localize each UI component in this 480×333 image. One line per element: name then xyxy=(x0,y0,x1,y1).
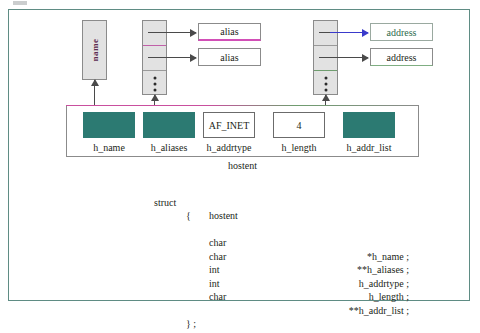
code-line-open-brace: { xyxy=(9,196,471,210)
struct-field-label-h-aliases: h_aliases xyxy=(138,142,200,153)
code-line-member: char **h_aliases ; xyxy=(9,236,471,250)
struct-field-h-aliases xyxy=(143,112,195,138)
arrow-aliases-to-alias-2-icon xyxy=(159,57,196,58)
diagram-caption: hostent xyxy=(66,160,419,171)
code-line-blank xyxy=(9,290,471,304)
code-close-brace: } ; xyxy=(186,317,196,331)
h-name-string-label: name xyxy=(90,39,100,62)
struct-field-h-addr-list xyxy=(343,112,395,138)
h-name-string-box: name xyxy=(82,20,107,80)
arrow-addrlist-to-address-2-icon xyxy=(330,57,368,58)
code-line-member: char **h_addr_list ; xyxy=(9,277,471,291)
addrlist-array-cell-1 xyxy=(314,46,337,71)
hostent-struct-row: AF_INET 4 h_name h_aliases h_addrtype h_… xyxy=(66,105,419,157)
struct-field-label-h-addrtype: h_addrtype xyxy=(198,142,260,153)
code-line-member: int h_addrtype ; xyxy=(9,250,471,264)
aliases-array-cell-0 xyxy=(143,21,166,46)
struct-field-h-name xyxy=(83,112,135,138)
struct-field-label-h-length: h_length xyxy=(268,142,330,153)
alias-box: alias xyxy=(198,23,261,41)
aliases-array-cell-1 xyxy=(143,46,166,71)
scan-artifact xyxy=(13,1,27,5)
address-box: address xyxy=(370,48,433,66)
figure-frame: name alias xyxy=(8,9,470,301)
alias-box: alias xyxy=(198,48,261,66)
address-box: address xyxy=(370,23,433,41)
struct-field-label-h-addr-list: h_addr_list xyxy=(338,142,400,153)
aliases-array-cell-ellipsis xyxy=(143,71,166,96)
vertical-ellipsis-icon xyxy=(324,76,327,91)
memory-layout-diagram: name alias xyxy=(9,10,471,175)
code-line-close-brace: } ; xyxy=(9,304,471,318)
code-line-member: char *h_name ; xyxy=(9,223,471,237)
struct-field-label-h-name: h_name xyxy=(78,142,140,153)
code-line-header: struct hostent xyxy=(9,182,471,196)
addrlist-array-cell-0 xyxy=(314,21,337,46)
struct-row-accent-line xyxy=(66,105,419,106)
arrow-aliases-to-alias-1-icon xyxy=(159,32,196,33)
code-line-member: int h_length ; xyxy=(9,263,471,277)
struct-declaration-code: struct hostent { char *h_name ; char **h… xyxy=(9,182,471,317)
struct-field-h-addrtype: AF_INET xyxy=(203,112,255,138)
arrow-addrlist-to-address-1-icon xyxy=(330,32,368,33)
code-line-blank xyxy=(9,209,471,223)
vertical-ellipsis-icon xyxy=(153,76,156,91)
addrlist-array-cell-ellipsis xyxy=(314,71,337,96)
struct-field-h-length: 4 xyxy=(273,112,325,138)
